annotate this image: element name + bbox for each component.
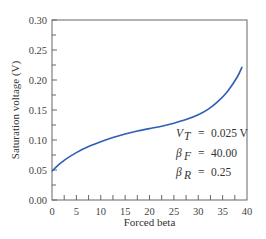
annotation-value: 0.025 V bbox=[211, 127, 249, 139]
annotation-equals: = bbox=[198, 166, 205, 178]
y-tick-label: 0.05 bbox=[29, 165, 47, 176]
x-axis-ticks: 0510152025303540 bbox=[49, 195, 252, 217]
x-tick-label: 0 bbox=[49, 206, 54, 217]
x-tick-label: 40 bbox=[242, 206, 253, 217]
y-tick-label: 0.15 bbox=[29, 105, 47, 116]
x-axis-label: Forced beta bbox=[124, 216, 176, 228]
annotation-symbol: β bbox=[175, 147, 182, 160]
y-tick-label: 0.00 bbox=[29, 195, 47, 206]
x-tick-label: 5 bbox=[74, 206, 79, 217]
y-axis-ticks: 0.000.050.100.150.200.250.30 bbox=[29, 15, 57, 206]
saturation-voltage-chart: 0.000.050.100.150.200.250.30 05101520253… bbox=[0, 0, 266, 239]
annotation-equals: = bbox=[198, 147, 205, 159]
x-tick-label: 35 bbox=[217, 206, 228, 217]
y-tick-label: 0.30 bbox=[29, 15, 47, 26]
annotation-value: 40.00 bbox=[211, 147, 237, 159]
y-tick-label: 0.20 bbox=[29, 75, 47, 86]
annotation-value: 0.25 bbox=[211, 166, 231, 178]
annotation-subscript: T bbox=[184, 130, 192, 142]
y-axis-label: Saturation voltage (V) bbox=[9, 60, 22, 159]
y-tick-label: 0.10 bbox=[29, 135, 47, 146]
x-tick-label: 30 bbox=[193, 206, 204, 217]
annotation-symbol: β bbox=[175, 166, 182, 179]
annotation-equals: = bbox=[198, 127, 205, 139]
annotation-subscript: R bbox=[183, 169, 191, 181]
annotation-subscript: F bbox=[183, 150, 192, 162]
parameter-annotations: VT=0.025 VβF=40.00βR=0.25 bbox=[175, 127, 249, 181]
x-tick-label: 10 bbox=[96, 206, 107, 217]
y-tick-label: 0.25 bbox=[29, 45, 47, 56]
